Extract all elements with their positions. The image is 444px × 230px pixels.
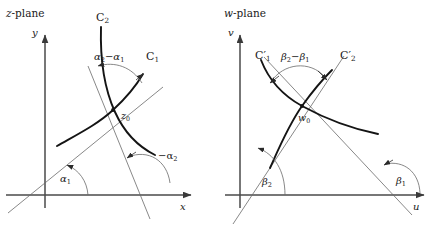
- curve-c2-label-sub: 2: [104, 16, 109, 25]
- curve-c2-prime-label: C′2: [340, 50, 356, 61]
- tangent-line-beta1: [264, 57, 412, 215]
- curve-c1-label: C1: [146, 51, 159, 62]
- figure-vector-graphics: [0, 0, 444, 230]
- conformal-mapping-figure: z-plane y x C2 C1 α2−α1 z0 α1 −α2 w-plan…: [0, 0, 444, 230]
- point-z0: [111, 108, 115, 112]
- point-w0: [300, 104, 304, 108]
- angle-beta2-label: β2: [262, 177, 272, 187]
- angle-beta1-label: β1: [396, 176, 406, 186]
- angle-minus-alpha2-label: −α2: [158, 151, 177, 161]
- point-w0-label-text: w: [298, 112, 306, 123]
- curve-c2-prime-label-sub: 2: [351, 54, 356, 63]
- w-plane-title-italic: w: [224, 7, 233, 19]
- w-plane-y-axis-label: v: [228, 28, 234, 38]
- angle-alpha1-label: α1: [60, 174, 71, 184]
- angle-beta2-minus-beta1-label: β2−β1: [281, 52, 309, 62]
- w-plane-x-axis-label: u: [413, 202, 419, 212]
- alpha1-sub: 1: [120, 56, 124, 64]
- beta1-sub: 1: [305, 56, 309, 64]
- angle-beta2-symbol: β: [262, 176, 268, 187]
- w-plane-title: w-plane: [224, 8, 266, 19]
- curve-c2-label: C2: [96, 12, 109, 23]
- curve-c1-prime: [261, 60, 378, 134]
- alpha2-sub: 2: [101, 56, 105, 64]
- angle-beta1-sub: 1: [402, 180, 406, 188]
- curve-c1-prime-label-sub: 1: [266, 54, 271, 63]
- curve-c1-prime-label: C′1: [255, 50, 271, 61]
- z-plane-title: z-plane: [6, 8, 44, 19]
- point-w0-label-sub: 0: [306, 117, 310, 124]
- curve-c1-label-sub: 1: [154, 55, 159, 64]
- curve-c2: [101, 27, 155, 155]
- point-w0-label: w0: [298, 113, 310, 123]
- angle-minus-alpha2-symbol: −α: [158, 150, 173, 161]
- angle-beta2-sub: 2: [268, 181, 272, 189]
- point-z0-label-sub: 0: [126, 115, 130, 122]
- arc-beta1-tip: [384, 160, 393, 165]
- angle-alpha1-sub: 1: [67, 178, 71, 186]
- beta2-symbol: β: [281, 51, 287, 62]
- z-plane-title-rest: -plane: [12, 7, 45, 19]
- point-z0-label: z0: [121, 111, 130, 121]
- beta2-sub: 2: [287, 56, 291, 64]
- angle-beta1-symbol: β: [396, 175, 402, 186]
- w-plane-title-rest: -plane: [233, 7, 266, 19]
- angle-alpha2-minus-alpha1-label: α2−α1: [94, 52, 124, 62]
- tangent-line-beta2: [233, 56, 344, 224]
- angle-minus-alpha2-sub: 2: [173, 155, 177, 163]
- angle-alpha1-symbol: α: [60, 173, 67, 184]
- tangent-line-alpha2: [88, 66, 150, 219]
- z-plane-y-axis-label: y: [32, 28, 38, 38]
- arc-beta2-minus-beta1: [271, 66, 325, 82]
- alpha2-symbol: α: [94, 51, 101, 62]
- z-plane-x-axis-label: x: [180, 202, 186, 212]
- right-panel-graphics: [225, 35, 424, 224]
